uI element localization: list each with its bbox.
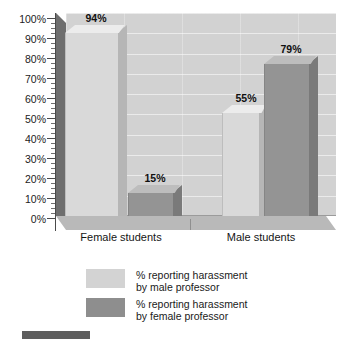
- y-tick-label-100: 100%: [19, 14, 46, 24]
- bar-female-students-male-professor: [65, 25, 117, 216]
- y-axis: 100% 90% 80% 70% 60% 50% 40% 30% 20% 10%…: [0, 0, 56, 230]
- bar-value-label-55: 55%: [222, 92, 270, 104]
- bar-front-face: [264, 64, 309, 216]
- legend-swatch-female-professor: [86, 298, 125, 317]
- y-tick-label-20: 20%: [25, 174, 46, 184]
- y-tick-label-30: 30%: [25, 154, 46, 164]
- category-divider: [190, 219, 191, 230]
- y-major-tick: [47, 218, 55, 219]
- y-major-tick: [47, 158, 55, 159]
- y-major-tick: [47, 138, 55, 139]
- bar-value-label-79: 79%: [264, 43, 318, 55]
- y-major-tick: [47, 78, 55, 79]
- category-label-male-students: Male students: [196, 231, 326, 243]
- y-major-tick: [47, 118, 55, 119]
- y-major-tick: [47, 38, 55, 39]
- y-tick-label-40: 40%: [25, 134, 46, 144]
- y-tick-label-80: 80%: [25, 54, 46, 64]
- plot-floor: [56, 216, 336, 230]
- bottom-marker-bar: [22, 331, 90, 339]
- y-tick-label-60: 60%: [25, 94, 46, 104]
- legend-swatch-male-professor: [86, 269, 125, 288]
- bar-side-face: [308, 56, 318, 216]
- y-tick-label-90: 90%: [25, 34, 46, 44]
- y-tick-label-50: 50%: [25, 114, 46, 124]
- y-tick-label-70: 70%: [25, 74, 46, 84]
- bar-top-face: [65, 25, 125, 33]
- y-major-tick: [47, 178, 55, 179]
- legend-label-female-professor: % reporting harassment by female profess…: [136, 298, 247, 322]
- y-major-tick: [47, 98, 55, 99]
- bar-value-label-94: 94%: [65, 12, 127, 24]
- category-label-female-students: Female students: [52, 231, 190, 243]
- legend-item-male-professor: % reporting harassment by male professor: [86, 269, 247, 293]
- bar-top-face: [222, 105, 266, 113]
- y-major-tick: [47, 198, 55, 199]
- bar-front-face: [65, 33, 118, 216]
- y-tick-label-10: 10%: [25, 194, 46, 204]
- y-major-tick: [47, 18, 55, 19]
- legend-label-male-professor: % reporting harassment by male professor: [136, 269, 247, 293]
- bar-value-label-15: 15%: [128, 172, 182, 184]
- bar-front-face: [128, 193, 173, 216]
- bar-female-students-female-professor: [128, 185, 172, 216]
- bar-chart-figure: 100% 90% 80% 70% 60% 50% 40% 30% 20% 10%…: [0, 0, 351, 340]
- bar-male-students-male-professor: [222, 105, 258, 216]
- bar-male-students-female-professor: [264, 56, 308, 216]
- y-major-tick: [47, 58, 55, 59]
- bar-front-face: [222, 113, 259, 216]
- legend-item-female-professor: % reporting harassment by female profess…: [86, 298, 247, 322]
- bar-top-face: [264, 56, 316, 64]
- legend: % reporting harassment by male professor…: [86, 269, 247, 327]
- y-tick-label-0: 0%: [31, 214, 46, 224]
- bar-top-face: [128, 185, 180, 193]
- plot-area: 94% 15% 55% 79%: [56, 13, 336, 230]
- bar-side-face: [117, 25, 127, 216]
